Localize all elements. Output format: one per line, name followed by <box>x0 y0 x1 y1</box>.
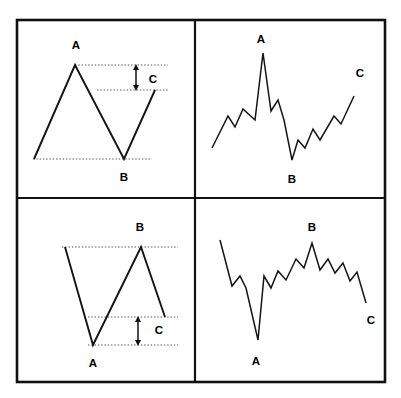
pivot-label-c: C <box>149 73 157 85</box>
idealized-bearish-swing-path <box>65 247 165 345</box>
pivot-label-c: C <box>155 324 163 336</box>
realistic-bullish-swing-path <box>212 53 354 160</box>
pivot-label-a: A <box>257 33 265 45</box>
pivot-label-b: B <box>136 221 144 233</box>
pivot-label-c: C <box>356 67 364 79</box>
pivot-label-a: A <box>72 39 80 51</box>
pivot-label-c: C <box>367 314 375 326</box>
panel-bottom-right: B A C <box>220 221 375 367</box>
pivot-label-a: A <box>89 357 97 369</box>
c-measure-arrow-head-up <box>135 316 141 322</box>
pivot-label-a: A <box>252 355 260 367</box>
figure-container: A B C A B C B A C B A <box>0 0 401 398</box>
pivot-label-b: B <box>120 171 128 183</box>
pivot-label-b: B <box>288 173 296 185</box>
panel-top-right: A B C <box>212 33 364 185</box>
abc-pattern-figure: A B C A B C B A C B A <box>0 0 401 398</box>
panel-bottom-left: B A C <box>62 221 178 369</box>
outer-frame <box>17 20 385 382</box>
pivot-label-b: B <box>308 221 316 233</box>
realistic-bearish-swing-path <box>220 240 366 340</box>
c-measure-arrow-head-down <box>135 340 141 346</box>
panel-top-left: A B C <box>33 39 168 183</box>
idealized-bullish-swing-path <box>34 65 155 159</box>
